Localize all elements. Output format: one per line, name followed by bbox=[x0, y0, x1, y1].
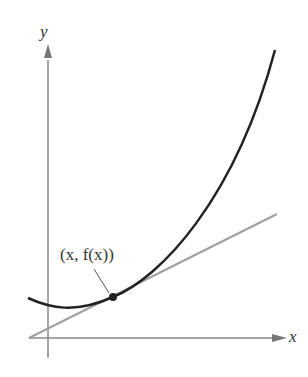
tangent-line bbox=[29, 214, 277, 338]
leader-line bbox=[94, 269, 109, 293]
point-label: (x, f(x)) bbox=[60, 245, 114, 265]
y-axis-arrow-icon bbox=[44, 44, 52, 58]
tangent-point bbox=[109, 293, 117, 301]
x-axis-arrow-icon bbox=[272, 334, 287, 342]
x-axis-label: x bbox=[289, 327, 297, 347]
tangent-diagram bbox=[0, 0, 308, 377]
function-curve bbox=[28, 50, 275, 308]
y-axis-label: y bbox=[40, 22, 48, 42]
